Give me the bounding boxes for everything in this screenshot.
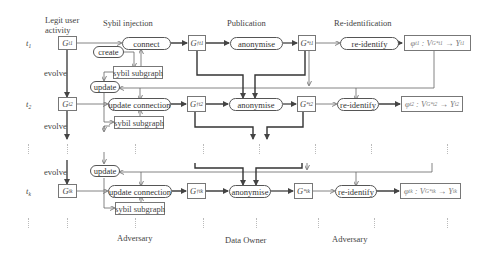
ellipsis-dots	[447, 144, 449, 154]
anonymise-op-tk: anonymise	[229, 185, 271, 198]
time-label-t2: t2	[26, 99, 31, 112]
sybil-subgraph-t2: sybil subgraph	[114, 116, 164, 129]
reidentify-op-t2: re-identify	[337, 98, 379, 111]
mapping-result-t1: φt1 : VG*t1 → Yt1	[404, 35, 471, 51]
anonymise-op-t1: anonymise	[230, 37, 283, 50]
ellipsis-dots	[259, 144, 261, 154]
ellipsis-dots	[203, 144, 205, 154]
ellipsis-dots	[67, 144, 69, 154]
ellipsis-dots	[318, 218, 320, 228]
header-legit-line1: Legit user	[45, 15, 79, 25]
footer-adversary-reidentification: Adversary	[332, 234, 367, 244]
update-op-tk: update	[90, 165, 120, 177]
published-graph-tk: G†tk	[187, 183, 206, 199]
mapping-result-t2: φt2 : VG*t2 → Yt2	[401, 96, 463, 112]
legit-graph-t2: Gt2	[58, 97, 77, 111]
sybil-subgraph-tk: sybil subgraph	[115, 202, 165, 215]
ellipsis-dots	[371, 144, 373, 154]
anonymised-graph-tk: G*tk	[294, 183, 313, 199]
mapping-result-tk: φtk : VG*tk → Ytk	[400, 183, 461, 199]
published-graph-t1: G†t1	[188, 35, 206, 51]
header-reidentification: Re-identification	[334, 18, 392, 28]
footer-adversary-injection: Adversary	[117, 233, 152, 243]
ellipsis-dots	[315, 144, 317, 154]
published-graph-t2: G†t2	[187, 96, 206, 112]
update-op-t2: update	[90, 81, 120, 93]
evolve-label: evolve	[44, 167, 67, 177]
update-connection-op-tk: update connection	[108, 185, 172, 198]
create-op: create	[93, 46, 124, 58]
ellipsis-dots	[256, 218, 258, 228]
anonymised-graph-t2: G*t2	[297, 96, 316, 112]
evolve-label: evolve	[44, 68, 67, 78]
sybil-subgraph-t1: sybil subgraph	[113, 66, 163, 79]
ellipsis-dots	[135, 144, 137, 154]
anonymised-graph-t1: G*t1	[298, 35, 316, 51]
ellipsis-dots	[374, 218, 376, 228]
reidentify-op-tk: re-identify	[335, 185, 377, 198]
time-label-t1: t1	[26, 38, 31, 51]
header-publication: Publication	[227, 18, 266, 28]
ellipsis-dots	[203, 218, 205, 228]
ellipsis-dots	[67, 218, 69, 228]
time-label-tk: tk	[26, 186, 31, 199]
ellipsis-dots	[28, 218, 30, 228]
header-legit-activity: Legit user activity	[45, 15, 79, 35]
legit-graph-t1: Gt1	[58, 36, 77, 50]
legit-graph-tk: Gtk	[58, 184, 77, 198]
ellipsis-dots	[447, 218, 449, 228]
footer-data-owner: Data Owner	[225, 235, 266, 245]
reidentify-op-t1: re-identify	[340, 37, 399, 50]
evolve-label: evolve	[44, 121, 67, 131]
update-connection-op-t2: update connection	[108, 98, 171, 111]
header-sybil-injection: Sybil injection	[103, 18, 153, 28]
anonymise-op-t2: anonymise	[229, 98, 283, 111]
ellipsis-dots	[28, 144, 30, 154]
header-legit-line2: activity	[45, 25, 79, 35]
connect-op: connect	[122, 37, 171, 50]
ellipsis-dots	[135, 218, 137, 228]
